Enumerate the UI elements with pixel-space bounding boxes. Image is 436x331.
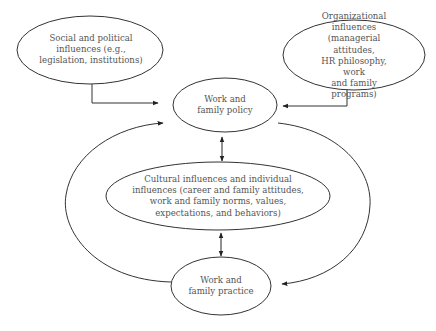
practice-node-label: Work and family practice (188, 275, 253, 297)
social-node-label: Social and political influences (e.g., l… (39, 33, 142, 67)
social-to-policy-arrow (92, 84, 158, 103)
diagram-canvas: Social and political influences (e.g., l… (0, 0, 436, 331)
policy-node-label: Work and family policy (197, 94, 252, 116)
organizational-node-label: Organizational influences (managerial at… (313, 11, 395, 101)
cultural-node-label: Cultural influences and individual influ… (132, 174, 304, 219)
